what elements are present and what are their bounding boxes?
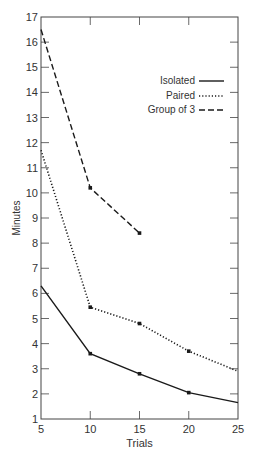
x-tick-label: 25: [232, 423, 244, 435]
y-tick-label: 14: [26, 86, 38, 98]
x-tick-label: 20: [183, 423, 195, 435]
data-point-marker: [187, 391, 191, 395]
plot-frame: [41, 17, 238, 419]
y-tick-label: 13: [26, 112, 38, 124]
y-tick-label: 17: [26, 11, 38, 23]
series-paired: [41, 150, 238, 371]
legend-label: Isolated: [160, 75, 195, 86]
data-point-marker: [138, 372, 142, 376]
line-chart: 1234567891011121314151617 510152025 Isol…: [0, 0, 253, 456]
y-tick-label: 3: [32, 363, 38, 375]
data-point-marker: [88, 186, 92, 190]
y-tick-label: 10: [26, 187, 38, 199]
y-tick-label: 5: [32, 313, 38, 325]
series-isolated: [41, 286, 238, 403]
y-tick-label: 7: [32, 262, 38, 274]
y-axis: 1234567891011121314151617: [26, 11, 238, 425]
y-tick-label: 4: [32, 338, 38, 350]
plot-border: [41, 17, 238, 419]
legend-label: Paired: [166, 90, 195, 101]
y-tick-label: 6: [32, 287, 38, 299]
x-tick-label: 15: [133, 423, 145, 435]
x-tick-label: 5: [38, 423, 44, 435]
data-point-marker: [138, 231, 142, 235]
x-tick-label: 10: [84, 423, 96, 435]
data-point-marker: [187, 349, 191, 353]
y-tick-label: 9: [32, 212, 38, 224]
y-tick-label: 12: [26, 137, 38, 149]
data-point-marker: [138, 322, 142, 326]
y-tick-label: 16: [26, 36, 38, 48]
y-tick-label: 15: [26, 61, 38, 73]
data-point-marker: [88, 305, 92, 309]
data-series: [41, 30, 238, 403]
y-tick-label: 2: [32, 388, 38, 400]
y-tick-label: 8: [32, 237, 38, 249]
x-axis-label: Trials: [126, 437, 153, 449]
y-tick-label: 11: [27, 162, 38, 174]
series-group-of-3: [41, 30, 140, 234]
y-axis-label: Minutes: [11, 200, 22, 235]
data-point-marker: [88, 352, 92, 356]
legend: IsolatedPairedGroup of 3: [148, 75, 224, 115]
legend-label: Group of 3: [148, 104, 196, 115]
